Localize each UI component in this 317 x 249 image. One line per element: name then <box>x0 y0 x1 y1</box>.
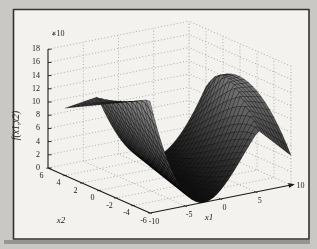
z-tick-label: 12 <box>32 85 40 93</box>
x1-tick-label: -5 <box>186 211 193 219</box>
z-exponent-base: ×10 <box>52 30 65 38</box>
z-axis-label: f(x1,x2) <box>12 86 21 166</box>
z-tick-label: 4 <box>36 138 40 146</box>
x2-tick-label: 6 <box>40 172 44 180</box>
z-tick-label: 6 <box>36 124 40 132</box>
x2-tick-label: 2 <box>74 187 78 195</box>
x2-tick-label: -2 <box>106 202 113 210</box>
x1-tick-label: -10 <box>149 218 160 226</box>
x1-axis-label: x1 <box>194 213 224 222</box>
x2-tick-label: -4 <box>123 209 130 217</box>
x2-tick-label: 0 <box>91 194 95 202</box>
scanned-figure-page: f(x1,x2) x1 x2 ×104 0246810121416186420-… <box>0 0 317 249</box>
z-tick-label: 14 <box>32 72 40 80</box>
z-tick-label: 2 <box>36 151 40 159</box>
z-tick-label: 10 <box>32 98 40 106</box>
x1-tick-label: 10 <box>297 182 305 190</box>
z-tick-label: 8 <box>36 111 40 119</box>
x2-tick-label: 4 <box>57 179 61 187</box>
axis-labels-layer: f(x1,x2) x1 x2 ×104 0246810121416186420-… <box>0 0 317 249</box>
z-tick-label: 16 <box>32 58 40 66</box>
x2-axis-label: x2 <box>46 216 76 225</box>
x1-tick-label: 0 <box>223 204 227 212</box>
z-tick-label: 18 <box>32 45 40 53</box>
x2-tick-label: -6 <box>140 217 147 225</box>
x1-tick-label: 5 <box>258 197 262 205</box>
z-exponent-label: ×104 <box>52 30 55 42</box>
